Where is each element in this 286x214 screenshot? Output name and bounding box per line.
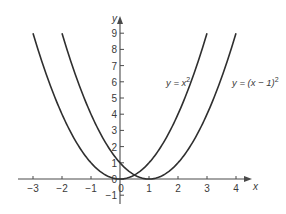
x-tick-label: 3 xyxy=(204,183,210,194)
y-tick-label: 6 xyxy=(111,77,117,88)
y-tick-label: 2 xyxy=(111,142,117,153)
label-x-squared: y = x2 xyxy=(165,76,190,88)
y-axis-label: y xyxy=(111,13,118,24)
parabola-chart: xy−3−2−112340−10123456789y = x2y = (x − … xyxy=(0,0,286,214)
x-tick-label: −2 xyxy=(56,183,68,194)
y-tick-label: 5 xyxy=(111,93,117,104)
curves xyxy=(33,33,236,179)
label-x-minus-1-squared: y = (x − 1)2 xyxy=(231,76,279,88)
x-tick-label: 2 xyxy=(175,183,181,194)
x-tick-label: 4 xyxy=(233,183,239,194)
x-tick-label-origin: 0 xyxy=(118,183,124,194)
y-tick-label: 1 xyxy=(111,158,117,169)
y-tick-label: 9 xyxy=(111,28,117,39)
y-tick-label: 8 xyxy=(111,44,117,55)
curve-x-minus-1-squared xyxy=(62,33,236,179)
y-tick-label: −1 xyxy=(106,190,118,201)
x-tick-label: 1 xyxy=(146,183,152,194)
y-tick-label: 4 xyxy=(111,109,117,120)
x-tick-label: −3 xyxy=(27,183,39,194)
x-axis-label: x xyxy=(252,181,259,192)
y-tick-label: 3 xyxy=(111,125,117,136)
x-tick-label: −1 xyxy=(85,183,97,194)
x-axis-arrow-icon xyxy=(244,176,252,182)
chart-container: xy−3−2−112340−10123456789y = x2y = (x − … xyxy=(0,0,286,214)
y-tick-label: 0 xyxy=(111,174,117,185)
y-axis-arrow-icon xyxy=(117,16,123,24)
y-tick-label: 7 xyxy=(111,61,117,72)
